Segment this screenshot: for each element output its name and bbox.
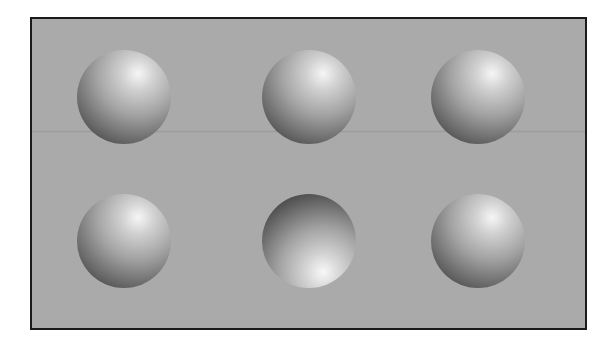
sphere-row1-col2 [262, 50, 356, 144]
sphere-row2-col1 [77, 194, 171, 288]
sphere-row2-col2-inverted [262, 194, 356, 288]
illusion-frame [30, 17, 587, 330]
sphere-row1-col3 [431, 50, 525, 144]
sphere-row1-col1 [77, 50, 171, 144]
sphere-row2-col3 [431, 194, 525, 288]
